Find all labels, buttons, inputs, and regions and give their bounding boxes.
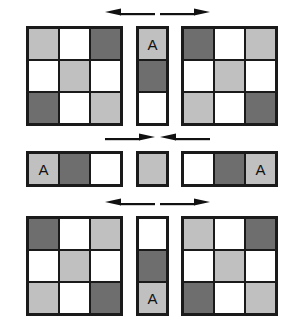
- cell: [90, 250, 121, 282]
- grid-row1-right: [181, 26, 278, 126]
- cell: [214, 153, 245, 185]
- grid-row1-left: [26, 26, 123, 126]
- figures-row-3: A: [0, 216, 297, 316]
- strip-row2-right: A: [181, 151, 278, 187]
- cell: [183, 218, 214, 250]
- cell: [59, 218, 90, 250]
- cell-label: A: [147, 37, 157, 52]
- cell: [138, 218, 167, 250]
- figures-row-2: A A: [0, 151, 297, 187]
- cell-row2-center: [136, 151, 169, 187]
- cell: [214, 92, 245, 124]
- cell: [245, 218, 276, 250]
- diagram-row-3: A: [0, 198, 297, 318]
- grid-row3-left: [26, 216, 123, 316]
- cell: [214, 218, 245, 250]
- cell-labeled-a: A: [245, 153, 276, 185]
- cell: [59, 28, 90, 60]
- grid-row3-right: [181, 216, 278, 316]
- cell: [28, 218, 59, 250]
- cell-labeled-a: A: [28, 153, 59, 185]
- cell: [28, 282, 59, 314]
- cell: [59, 153, 90, 185]
- cell-labeled-a: A: [138, 28, 167, 60]
- arrow-band-row-2: [0, 133, 297, 147]
- cell: [245, 282, 276, 314]
- arrow-band-row-3: [0, 198, 297, 212]
- cell: [28, 250, 59, 282]
- cell: [245, 60, 276, 92]
- cell: [245, 28, 276, 60]
- arrow-right-icon: [160, 198, 210, 212]
- strip-row2-left: A: [26, 151, 123, 187]
- cell: [183, 282, 214, 314]
- cell: [28, 60, 59, 92]
- cell: [245, 250, 276, 282]
- cell: [90, 282, 121, 314]
- grid-transformation-diagram: A: [0, 0, 297, 325]
- cell: [138, 60, 167, 92]
- cell: [245, 92, 276, 124]
- cell: [183, 92, 214, 124]
- arrow-right-icon: [105, 133, 155, 147]
- cell: [90, 218, 121, 250]
- cell: [183, 250, 214, 282]
- cell: [183, 153, 214, 185]
- cell: [183, 60, 214, 92]
- cell: [90, 60, 121, 92]
- cell: [138, 153, 167, 185]
- cell: [90, 28, 121, 60]
- cell: [59, 282, 90, 314]
- cell: [138, 250, 167, 282]
- arrow-left-icon: [160, 133, 210, 147]
- strip-row1-center: A: [136, 26, 169, 126]
- cell: [59, 92, 90, 124]
- cell: [59, 60, 90, 92]
- cell: [28, 28, 59, 60]
- diagram-row-2: A A: [0, 133, 297, 195]
- cell-label: A: [38, 162, 48, 177]
- cell: [28, 92, 59, 124]
- cell: [214, 60, 245, 92]
- arrow-right-icon: [160, 8, 210, 22]
- cell: [59, 250, 90, 282]
- cell-label: A: [255, 162, 265, 177]
- figures-row-1: A: [0, 26, 297, 126]
- strip-row3-center: A: [136, 216, 169, 316]
- arrow-left-icon: [105, 198, 155, 212]
- arrow-left-icon: [105, 8, 155, 22]
- cell: [138, 92, 167, 124]
- cell-labeled-a: A: [138, 282, 167, 314]
- cell: [214, 282, 245, 314]
- arrow-band-row-1: [0, 8, 297, 22]
- cell: [90, 92, 121, 124]
- cell: [90, 153, 121, 185]
- cell: [183, 28, 214, 60]
- cell-label: A: [147, 291, 157, 306]
- cell: [214, 250, 245, 282]
- cell: [214, 28, 245, 60]
- diagram-row-1: A: [0, 8, 297, 126]
